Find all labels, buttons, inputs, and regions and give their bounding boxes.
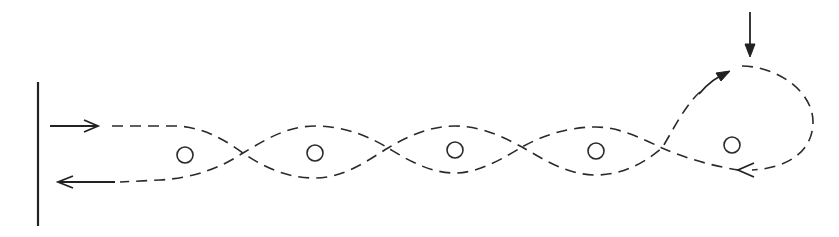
diagram-canvas	[0, 0, 839, 237]
scatterer-circle-1	[177, 147, 193, 163]
trajectory-diagram	[0, 0, 839, 237]
scatterer-circle-3	[447, 142, 463, 158]
trajectory-lower-strand	[120, 126, 740, 182]
trajectory-upper-strand	[112, 92, 700, 178]
incoming-arrow-icon	[50, 120, 98, 132]
loop-return-arrow-icon	[738, 163, 754, 177]
trajectory-loop	[742, 66, 813, 170]
scatterer-circle-5	[724, 137, 740, 153]
scatterer-circle-4	[588, 143, 604, 159]
down-arrow-icon	[745, 12, 755, 57]
outgoing-arrow-icon	[58, 176, 115, 188]
loop-up-arrow-icon	[699, 71, 730, 94]
scatterer-circle-2	[307, 145, 323, 161]
